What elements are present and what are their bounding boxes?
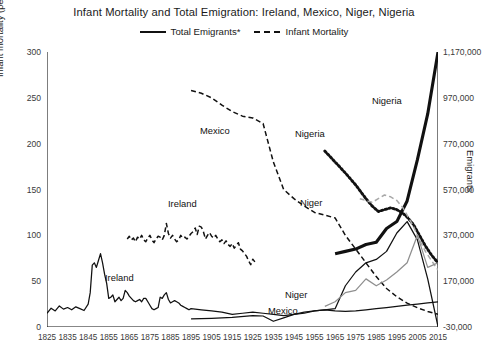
solid-line-icon [140,31,166,33]
y-axis-tick-label-left: 50 [1,277,41,286]
series-niger-total-emigrants [325,235,438,306]
y-axis-tick-label-left: 150 [1,186,41,195]
series-annotation-ireland-mortality: Ireland [168,198,197,209]
y-axis-tick-label-right: 570,000 [443,186,488,195]
y-axis-tick-label-left: 300 [1,48,41,57]
y-axis-tick-label-left: 0 [1,323,41,332]
chart-root: Infant Mortality and Total Emigration: I… [0,0,488,348]
series-annotation-mexico-mortality: Mexico [200,125,230,136]
legend-item-infant-mortality: Infant Mortality [254,26,348,37]
series-annotation-niger-emigrants: Niger [285,289,307,300]
y-axis-title-right: Emigrants [465,150,476,270]
series-annotation-niger-mortality: Niger [300,197,322,208]
series-mexico-total-emigrants [191,222,438,327]
series-annotation-nigeria-mortality: Nigeria [295,128,325,139]
series-annotation-ireland-emigrants: Ireland [105,272,134,283]
y-axis-tick-label-right: -30,000 [443,323,488,332]
y-axis-tick-label-left: 100 [1,231,41,240]
dashed-line-icon [254,31,280,33]
series-nigeria-total-emigrants [335,52,438,254]
y-axis-tick-label-left: 250 [1,94,41,103]
y-axis-tick-label-right: 770,000 [443,140,488,149]
chart-title: Infant Mortality and Total Emigration: I… [0,6,488,18]
series-ireland-infant-mortality [127,223,255,264]
x-axis-tick-label: 2015 [418,334,458,342]
series-annotation-mexico-emigrants: Mexico [268,305,298,316]
y-axis-tick-label-right: 1,170,000 [443,48,488,57]
legend-label-infant-mortality: Infant Mortality [285,26,348,37]
legend-label-total-emigrants: Total Emigrants* [171,26,241,37]
y-axis-tick-label-right: 170,000 [443,277,488,286]
legend-item-total-emigrants: Total Emigrants* [140,26,241,37]
y-axis-tick-label-right: 370,000 [443,231,488,240]
y-axis-tick-label-left: 200 [1,140,41,149]
y-axis-tick-label-right: 970,000 [443,94,488,103]
chart-legend: Total Emigrants* Infant Mortality [0,26,488,37]
series-annotation-nigeria-emigrants: Nigeria [372,95,402,106]
plot-svg [47,52,438,327]
plot-area [47,52,438,327]
